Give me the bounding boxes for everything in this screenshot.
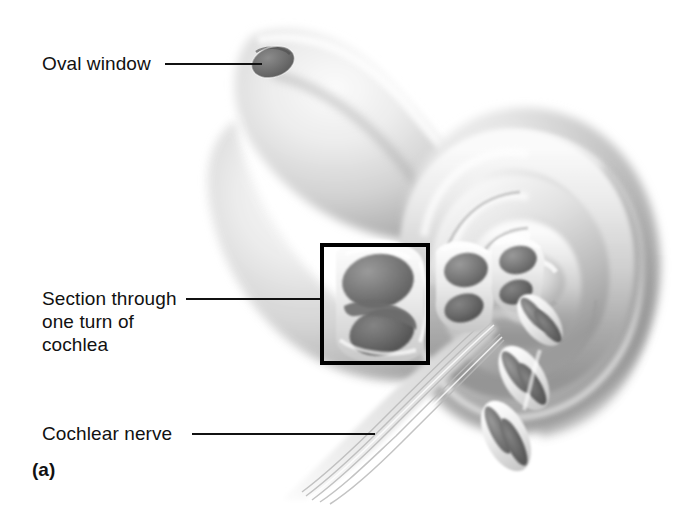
label-section-through-one-turn-of-cochlea: Section through one turn of cochlea xyxy=(42,287,177,356)
figure-panel-a: Oval window Section through one turn of … xyxy=(0,0,689,514)
label-oval-window: Oval window xyxy=(42,52,151,75)
panel-letter: (a) xyxy=(32,459,55,481)
cross-section-boxed xyxy=(336,240,426,365)
cross-section-2 xyxy=(436,241,497,332)
label-cochlear-nerve: Cochlear nerve xyxy=(42,422,172,445)
